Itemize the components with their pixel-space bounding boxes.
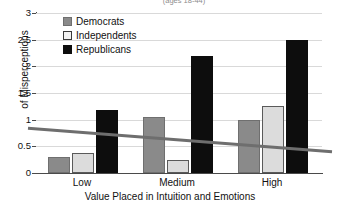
legend-item-democrats: Democrats: [63, 15, 137, 28]
legend-label-democrats: Democrats: [76, 16, 124, 27]
legend-label-republicans: Republicans: [76, 44, 131, 55]
legend-swatch-independents-icon: [63, 31, 72, 40]
legend-swatch-democrats-icon: [63, 17, 72, 26]
chart-legend: Democrats Independents Republicans: [63, 15, 137, 57]
x-axis-title: Value Placed in Intuition and Emotions: [0, 191, 340, 202]
legend-item-independents: Independents: [63, 29, 137, 42]
x-tick-high: High: [232, 177, 312, 188]
x-tick-low: Low: [42, 177, 122, 188]
x-tick-medium: Medium: [137, 177, 217, 188]
legend-label-independents: Independents: [76, 30, 137, 41]
legend-item-republicans: Republicans: [63, 43, 137, 56]
x-axis-line: [36, 173, 323, 174]
chart-title: (ages 18-44): [132, 0, 236, 5]
y-axis-title: of Misperceptions: [19, 0, 30, 140]
y-tick-0.5: 0.5: [0, 141, 31, 151]
y-tick-0: 0: [0, 168, 31, 178]
chart-container: (ages 18-44) 3 2.5 2 1.5 1 0.5 0 of Misp…: [0, 0, 340, 204]
legend-swatch-republicans-icon: [63, 45, 72, 54]
chart-title-clip: (ages 18-44): [132, 0, 236, 5]
